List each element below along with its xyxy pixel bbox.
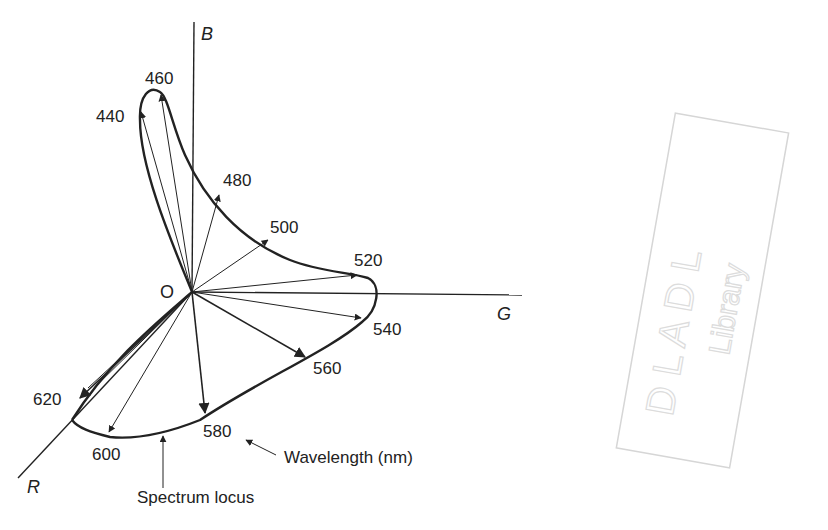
g-axis-label: G (497, 304, 511, 324)
g-axis (192, 292, 522, 295)
wavelength-label-620: 620 (33, 390, 61, 409)
wavelength-label-460: 460 (145, 69, 173, 88)
wavelength-label-560: 560 (313, 359, 341, 378)
wavelength-annotation: Wavelength (nm) (284, 448, 413, 467)
wavelength-label-580: 580 (203, 422, 231, 441)
stamp-line-2: Library (702, 261, 750, 357)
wavelength-label-440: 440 (96, 107, 124, 126)
library-stamp: D L A D L Library (616, 113, 788, 468)
wavelength-label-540: 540 (373, 320, 401, 339)
spectrum-locus-diagram: B G R O 440 460 480 500 520 540 560 580 … (0, 0, 828, 530)
wavelength-label-600: 600 (92, 445, 120, 464)
origin-label: O (160, 282, 174, 302)
b-axis (192, 22, 194, 292)
spectrum-locus (72, 90, 377, 438)
wavelength-label-500: 500 (270, 218, 298, 237)
wavelength-pointer (246, 440, 276, 455)
wavelength-label-480: 480 (223, 171, 251, 190)
wavelength-vectors (80, 95, 361, 432)
spectrum-locus-annotation: Spectrum locus (137, 488, 254, 507)
b-axis-label: B (201, 24, 213, 44)
wavelength-label-520: 520 (354, 251, 382, 270)
r-axis-label: R (27, 477, 40, 497)
